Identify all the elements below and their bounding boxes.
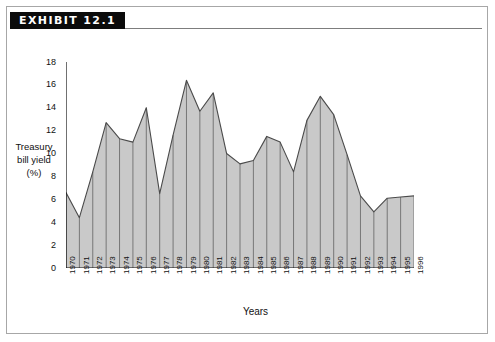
y-tick-label: 0	[38, 264, 56, 273]
x-tick-label: 1980	[203, 256, 211, 274]
x-tick-label: 1981	[216, 256, 224, 274]
x-tick-label: 1996	[417, 256, 425, 274]
y-tick-label: 14	[38, 103, 56, 112]
x-tick-label: 1995	[404, 256, 412, 274]
area-chart-svg	[66, 62, 414, 268]
x-tick-label: 1992	[364, 256, 372, 274]
x-tick-label: 1973	[109, 256, 117, 274]
x-tick-label: 1977	[163, 256, 171, 274]
x-tick-label: 1976	[150, 256, 158, 274]
y-tick-label: 12	[38, 126, 56, 135]
x-tick-label: 1984	[257, 256, 265, 274]
y-tick-label: 4	[38, 218, 56, 227]
y-tick-label: 6	[38, 195, 56, 204]
y-tick-label: 16	[38, 80, 56, 89]
x-tick-label: 1971	[83, 256, 91, 274]
x-tick-label: 1990	[337, 256, 345, 274]
x-tick-label: 1972	[96, 256, 104, 274]
plot-area	[66, 62, 414, 268]
x-tick-label: 1975	[136, 256, 144, 274]
x-tick-label: 1974	[123, 256, 131, 274]
y-tick-label: 2	[38, 241, 56, 250]
x-tick-label: 1983	[243, 256, 251, 274]
x-tick-label: 1989	[324, 256, 332, 274]
x-tick-label: 1978	[176, 256, 184, 274]
x-tick-label: 1994	[390, 256, 398, 274]
exhibit-figure: EXHIBIT 12.1 Treasury bill yield (%) 024…	[0, 0, 495, 342]
exhibit-tag: EXHIBIT 12.1	[10, 12, 125, 29]
y-tick-label: 8	[38, 172, 56, 181]
x-axis-title: Years	[0, 306, 495, 317]
x-tick-label: 1985	[270, 256, 278, 274]
x-tick-label: 1993	[377, 256, 385, 274]
x-tick-label: 1970	[69, 256, 77, 274]
x-tick-label: 1979	[190, 256, 198, 274]
y-tick-label: 10	[38, 149, 56, 158]
x-tick-label: 1986	[283, 256, 291, 274]
x-tick-label: 1987	[297, 256, 305, 274]
x-tick-label: 1982	[230, 256, 238, 274]
x-tick-label: 1991	[350, 256, 358, 274]
x-tick-label: 1988	[310, 256, 318, 274]
x-axis-title-text: Years	[243, 306, 268, 317]
y-tick-label: 18	[38, 58, 56, 67]
